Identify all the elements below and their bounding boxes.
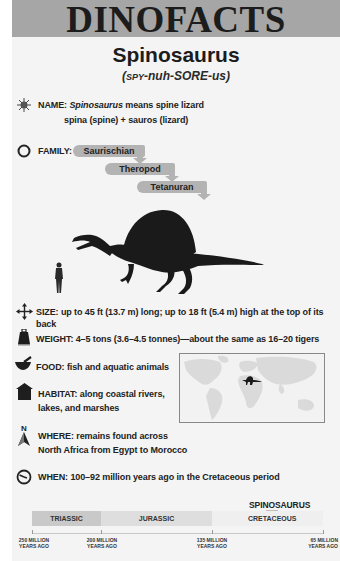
- timeline-label-135: 135 MILLION YEARS AGO: [192, 537, 232, 549]
- where-fact-line1: WHERE: remains found across: [38, 430, 168, 442]
- masthead: DINOFACTS: [12, 0, 340, 42]
- habitat-fact-line2: lakes, and marshes: [38, 402, 119, 414]
- name-etymology: spina (spine) + sauros (lizard): [64, 114, 188, 126]
- world-map: [179, 353, 325, 423]
- family-arrow-icon: [197, 194, 211, 200]
- pronunciation: (SPY-nuh-SORE-us): [12, 69, 340, 83]
- timeline-label-250: 250 MILLION YEARS AGO: [14, 537, 54, 549]
- family-level-theropod: Theropod: [105, 163, 175, 175]
- spinosaurus-silhouette-icon: [70, 208, 266, 294]
- timeline-axis: [32, 533, 324, 534]
- page-title: Spinosaurus: [12, 43, 340, 67]
- tick-label-line2: YEARS AGO: [302, 543, 338, 549]
- timeline-period-cretaceous: CRETACEOUS: [212, 511, 323, 526]
- tick-label-line2: YEARS AGO: [82, 543, 122, 549]
- name-species: Spinosaurus: [69, 100, 122, 110]
- mortar-pestle-icon: [14, 356, 32, 371]
- pron-rest: -nuh-SORE-us): [144, 69, 230, 83]
- family-level-saurischian: Saurischian: [73, 145, 145, 157]
- weight-icon: [17, 329, 31, 346]
- when-fact: WHEN: 100–92 million years ago in the Cr…: [38, 471, 280, 483]
- family-level-tetanuran: Tetanuran: [137, 181, 207, 193]
- timeline-label-200: 200 MILLION YEARS AGO: [82, 537, 122, 549]
- circle-icon: [17, 144, 31, 158]
- food-fact: FOOD: fish and aquatic animals: [36, 361, 169, 373]
- timeline-marker-label: SPINOSAURUS: [249, 499, 310, 511]
- starburst-icon: [17, 98, 31, 112]
- size-fact: SIZE: up to 45 ft (13.7 m) long; up to 1…: [36, 306, 340, 330]
- tick-label-line2: YEARS AGO: [14, 543, 54, 549]
- timeline-period-jurassic: JURASSIC: [101, 511, 212, 526]
- name-label: NAME:: [38, 100, 67, 110]
- house-icon: [16, 383, 33, 400]
- timeline-tick: [323, 530, 324, 534]
- pron-smallcaps: SPY: [126, 72, 144, 82]
- tick-label-line2: YEARS AGO: [192, 543, 232, 549]
- world-map-icon: [180, 354, 324, 422]
- name-meaning: means spine lizard: [123, 100, 204, 110]
- four-way-arrows-icon: [16, 303, 33, 320]
- timeline-tick: [32, 530, 33, 534]
- timeline-tick: [212, 530, 213, 534]
- timeline-tick: [101, 530, 102, 534]
- human-silhouette-icon: [54, 262, 64, 294]
- name-fact: NAME: Spinosaurus means spine lizard: [38, 99, 204, 111]
- weight-fact: WEIGHT: 4–5 tons (3.6–4.5 tonnes)—about …: [36, 333, 319, 345]
- family-label: FAMILY:: [38, 145, 72, 157]
- north-compass-icon: [18, 432, 30, 446]
- habitat-fact-line1: HABITAT: along coastal rivers,: [38, 388, 165, 400]
- timeline-period-triassic: TRIASSIC: [32, 511, 101, 526]
- timeline-label-65: 65 MILLION YEARS AGO: [302, 537, 338, 549]
- where-fact-line2: North Africa from Egypt to Morocco: [38, 444, 187, 456]
- clock-icon: [16, 469, 32, 485]
